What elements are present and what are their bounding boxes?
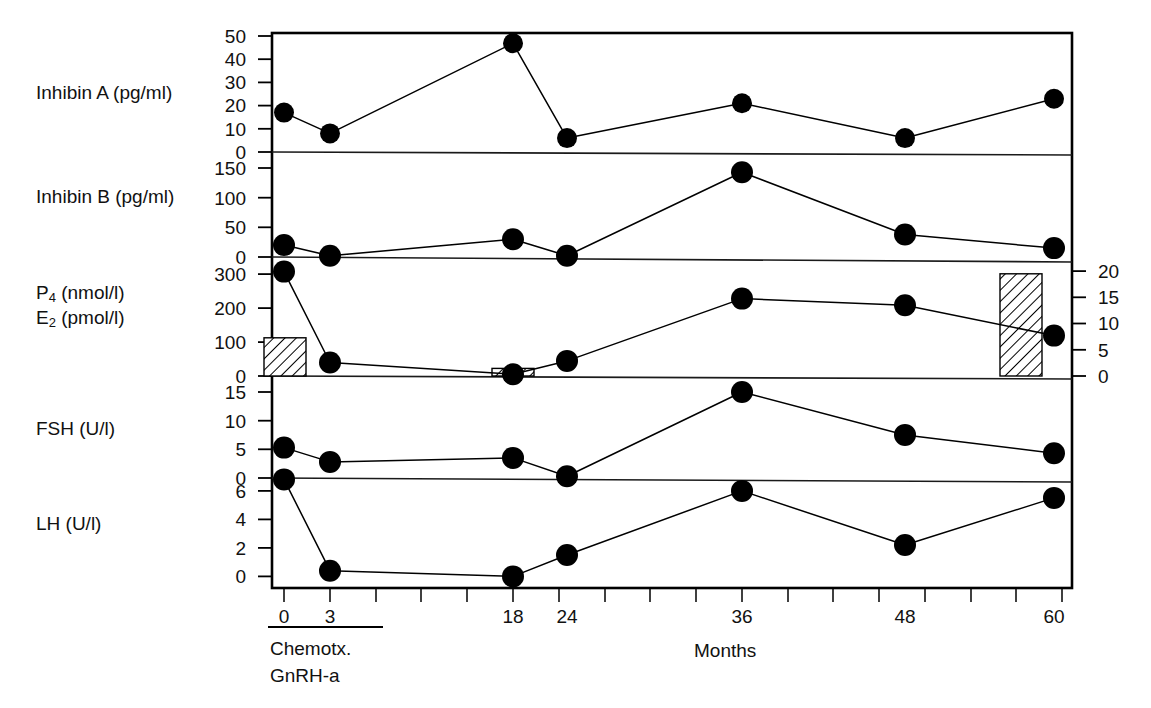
data-point <box>731 161 753 183</box>
data-point <box>894 424 916 446</box>
data-point <box>556 245 578 267</box>
ytick-lh: 4 <box>186 510 246 529</box>
figure-canvas: Inhibin A (pg/ml) Inhibin B (pg/ml) P4 (… <box>0 0 1151 708</box>
data-point <box>319 352 341 374</box>
separator-p4e2 <box>272 376 1072 379</box>
data-point <box>557 128 577 148</box>
data-point <box>502 447 524 469</box>
data-point <box>894 534 916 556</box>
data-point <box>319 451 341 473</box>
series-lh <box>273 468 1065 587</box>
ytick-inhibin-b: 50 <box>176 218 246 237</box>
xtick-label: 3 <box>310 607 350 626</box>
ytick-p4e2: 100 <box>176 333 246 352</box>
yaxis-ticks-lh <box>258 491 272 577</box>
ytick-lh: 0 <box>186 567 246 586</box>
ytick-fsh: 10 <box>186 412 246 431</box>
separator-fsh <box>272 478 1072 482</box>
ytick-p4e2: 300 <box>176 265 246 284</box>
bars-p4 <box>264 274 1042 376</box>
yaxis-ticks-p4e2-right <box>1072 271 1086 376</box>
ytick-inhibin-a: 10 <box>186 120 246 139</box>
xtick-label: 18 <box>493 607 533 626</box>
bar-p4 <box>264 338 306 376</box>
xtick-label: 48 <box>885 607 925 626</box>
xtick-label: 60 <box>1034 607 1074 626</box>
xtick-label: 0 <box>264 607 304 626</box>
xtick-label: 36 <box>722 607 762 626</box>
ytick-inhibin-b: 150 <box>176 159 246 178</box>
data-point <box>1043 487 1065 509</box>
data-point <box>503 33 523 53</box>
data-point <box>502 565 524 587</box>
separator-inhibin-b <box>272 257 1072 262</box>
data-point <box>1043 442 1065 464</box>
data-point <box>731 480 753 502</box>
data-point <box>1043 325 1065 347</box>
yaxis-ticks-fsh <box>258 392 272 478</box>
data-point <box>319 245 341 267</box>
data-point <box>1043 237 1065 259</box>
data-point <box>732 93 752 113</box>
data-point <box>894 224 916 246</box>
ytick-p4-right: 15 <box>1098 288 1151 307</box>
ytick-p4-right: 10 <box>1098 314 1151 333</box>
series-fsh <box>273 381 1065 487</box>
data-point <box>894 294 916 316</box>
data-point <box>273 261 295 283</box>
data-point <box>895 128 915 148</box>
data-point <box>731 288 753 310</box>
ytick-inhibin-a: 30 <box>186 73 246 92</box>
data-point <box>556 465 578 487</box>
series-inhibin-a <box>274 33 1064 148</box>
ytick-lh: 6 <box>186 482 246 501</box>
bar-p4 <box>1000 274 1042 376</box>
data-point <box>556 350 578 372</box>
data-point <box>274 103 294 123</box>
ytick-lh: 2 <box>186 539 246 558</box>
xaxis-ticks <box>284 588 1062 602</box>
data-point <box>319 560 341 582</box>
plot-frame <box>272 33 1072 588</box>
data-point <box>1044 89 1064 109</box>
yaxis-ticks-inhibin-a <box>258 36 272 152</box>
ytick-p4-right: 5 <box>1098 341 1151 360</box>
ytick-inhibin-a: 50 <box>186 27 246 46</box>
ytick-p4e2: 200 <box>176 299 246 318</box>
data-point <box>556 544 578 566</box>
series-e2 <box>273 261 1065 386</box>
separator-inhibin-a <box>272 152 1072 155</box>
ytick-p4-right: 20 <box>1098 262 1151 281</box>
data-point <box>731 381 753 403</box>
xtick-label: 24 <box>547 607 587 626</box>
yaxis-ticks-inhibin-b <box>258 168 272 257</box>
data-point <box>273 234 295 256</box>
ytick-fsh: 5 <box>186 440 246 459</box>
data-point <box>273 468 295 490</box>
ytick-inhibin-b: 100 <box>176 189 246 208</box>
ytick-inhibin-a: 20 <box>186 96 246 115</box>
data-point <box>273 437 295 459</box>
series-inhibin-b <box>273 161 1065 267</box>
data-point <box>502 363 524 385</box>
plot-svg <box>0 0 1151 708</box>
data-point <box>502 228 524 250</box>
data-point <box>320 123 340 143</box>
ytick-inhibin-a: 40 <box>186 50 246 69</box>
ytick-p4-right: 0 <box>1098 367 1151 386</box>
ytick-fsh: 15 <box>186 383 246 402</box>
